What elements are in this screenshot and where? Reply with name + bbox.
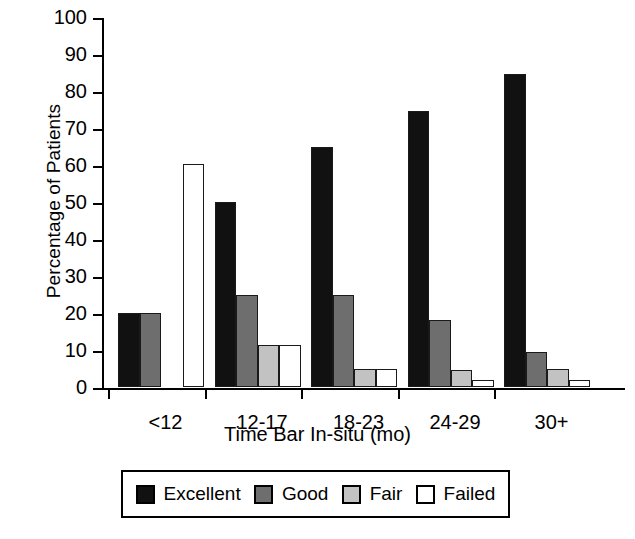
legend-label: Good xyxy=(282,483,328,505)
legend-swatch-excellent-icon xyxy=(136,485,155,504)
y-tick-label: 80 xyxy=(65,79,87,103)
bar-fair-1 xyxy=(258,345,280,387)
y-tick: 100 xyxy=(93,18,102,20)
y-tick-label: 60 xyxy=(65,153,87,177)
bar-good-3 xyxy=(429,320,451,387)
legend-label: Failed xyxy=(444,483,496,505)
y-tick: 50 xyxy=(93,203,102,205)
bar-failed-0 xyxy=(183,164,205,387)
y-tick: 90 xyxy=(93,55,102,57)
bar-fair-4 xyxy=(547,369,569,388)
y-tick: 30 xyxy=(93,277,102,279)
legend-swatch-failed-icon xyxy=(416,485,435,504)
bar-excellent-3 xyxy=(408,111,430,387)
y-tick: 80 xyxy=(93,92,102,94)
y-tick-label: 20 xyxy=(65,301,87,325)
x-tick xyxy=(398,390,400,399)
y-tick-label: 70 xyxy=(65,116,87,140)
y-tick-label: 40 xyxy=(65,227,87,251)
legend-label: Fair xyxy=(370,483,403,505)
legend-swatch-good-icon xyxy=(254,485,273,504)
bar-good-0 xyxy=(140,313,162,387)
bar-failed-1 xyxy=(279,345,301,387)
legend-swatch-fair-icon xyxy=(342,485,361,504)
y-tick-label: 50 xyxy=(65,190,87,214)
bar-chart-figure: Percentage of Patients 01020304050607080… xyxy=(0,0,635,539)
y-tick: 0 xyxy=(93,388,102,390)
bar-good-4 xyxy=(526,352,548,387)
bar-good-2 xyxy=(333,295,355,387)
bar-excellent-2 xyxy=(311,147,333,388)
y-tick: 70 xyxy=(93,129,102,131)
x-tick xyxy=(108,390,110,399)
bar-failed-2 xyxy=(376,369,398,388)
y-tick-label: 100 xyxy=(54,5,87,29)
x-tick xyxy=(494,390,496,399)
y-tick: 60 xyxy=(93,166,102,168)
bar-fair-2 xyxy=(354,369,376,388)
legend-label: Excellent xyxy=(164,483,241,505)
chart-legend: ExcellentGoodFairFailed xyxy=(121,470,510,518)
x-tick xyxy=(301,390,303,399)
bar-failed-4 xyxy=(569,380,591,387)
x-axis-line xyxy=(102,388,625,390)
y-tick-label: 90 xyxy=(65,42,87,66)
legend-item-failed[interactable]: Failed xyxy=(416,483,496,505)
bar-excellent-4 xyxy=(504,74,526,387)
y-tick: 10 xyxy=(93,351,102,353)
bar-fair-3 xyxy=(451,370,473,387)
y-tick-label: 30 xyxy=(65,264,87,288)
bar-good-1 xyxy=(236,295,258,387)
y-axis-title: Percentage of Patients xyxy=(43,51,65,351)
y-tick-label: 0 xyxy=(76,375,87,399)
y-tick-label: 10 xyxy=(65,338,87,362)
y-tick: 20 xyxy=(93,314,102,316)
plot-area: 0102030405060708090100 <1212-1718-2324-2… xyxy=(102,18,625,389)
bar-failed-3 xyxy=(472,380,494,387)
bar-excellent-0 xyxy=(118,313,140,387)
legend-item-good[interactable]: Good xyxy=(254,483,328,505)
x-axis-title: Time Bar In-situ (mo) xyxy=(0,423,635,446)
legend-item-fair[interactable]: Fair xyxy=(342,483,403,505)
y-axis-line xyxy=(102,18,104,390)
bar-excellent-1 xyxy=(215,202,237,387)
x-tick xyxy=(205,390,207,399)
legend-item-excellent[interactable]: Excellent xyxy=(136,483,241,505)
y-tick: 40 xyxy=(93,240,102,242)
